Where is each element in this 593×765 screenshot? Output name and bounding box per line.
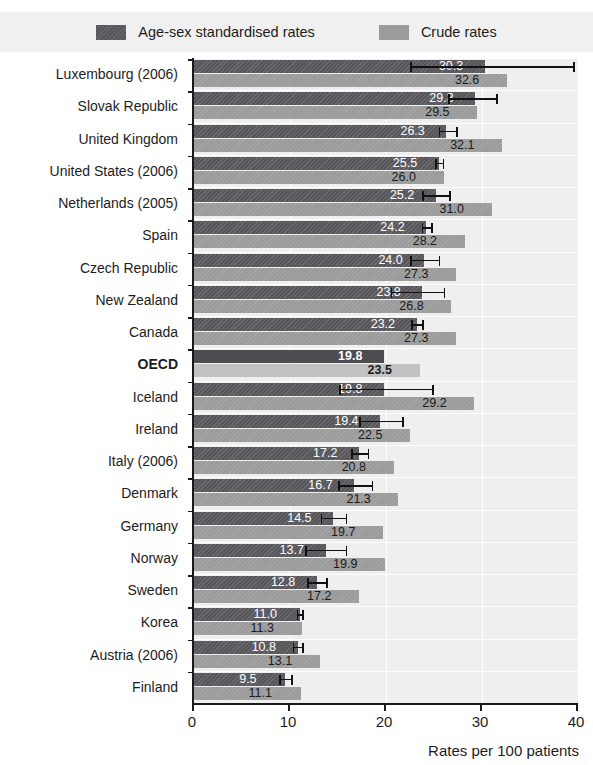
error-bar-cap-high [432, 385, 434, 395]
error-bar-line [307, 582, 326, 584]
bar-row: 25.526.0 [194, 155, 578, 187]
bar-value-standardised: 24.0 [378, 254, 402, 267]
bar-crude [194, 687, 301, 700]
bar-row: 14.519.7 [194, 510, 578, 542]
error-bar-cap-high [372, 481, 374, 491]
gridline [578, 58, 579, 703]
bar-row: 9.511.1 [194, 671, 578, 703]
plot-area: 30.332.629.329.526.332.125.526.025.231.0… [192, 58, 578, 703]
error-bar-cap-low [293, 643, 295, 653]
row-separator [194, 542, 578, 543]
bar-value-standardised: 23.2 [371, 318, 395, 331]
error-bar-cap-low [297, 610, 299, 620]
category-label: Austria (2006) [90, 647, 178, 663]
error-bar-line [410, 260, 439, 262]
x-axis-tick-label: 30 [472, 713, 489, 730]
error-bar-cap-high [422, 320, 424, 330]
error-bar-cap-high [456, 127, 458, 137]
bar-value-crude: 11.1 [249, 687, 272, 700]
bar-value-crude: 20.8 [342, 461, 366, 474]
error-bar-line [305, 550, 345, 552]
category-label: Finland [132, 679, 178, 695]
error-bar-cap-low [351, 449, 353, 459]
bar-value-standardised: 25.5 [393, 157, 417, 170]
error-bar-cap-low [339, 385, 341, 395]
bar-value-crude: 31.0 [440, 203, 464, 216]
bar-value-crude: 32.1 [450, 139, 474, 152]
error-bar-cap-low [359, 417, 361, 427]
bar-standardised [194, 576, 317, 589]
legend-label-standardised: Age-sex standardised rates [138, 24, 315, 40]
bar-row: 30.332.6 [194, 58, 578, 90]
bar-value-standardised: 26.3 [400, 125, 424, 138]
bar-value-standardised: 25.2 [390, 189, 414, 202]
category-label: United States (2006) [50, 163, 178, 179]
row-separator [194, 90, 578, 91]
error-bar-line [351, 453, 367, 455]
category-label: Korea [141, 614, 178, 630]
bar-value-crude: 27.3 [404, 268, 428, 281]
category-label: Slovak Republic [78, 98, 178, 114]
category-label: United Kingdom [78, 131, 178, 147]
error-bar-cap-high [402, 417, 404, 427]
error-bar-cap-low [411, 320, 413, 330]
error-bar-cap-high [346, 546, 348, 556]
x-axis-tick [576, 705, 578, 711]
bar-row: 23.826.8 [194, 284, 578, 316]
x-axis-tick [480, 705, 482, 711]
bar-value-standardised: 19.4 [334, 415, 358, 428]
bar-value-standardised: 19.8 [338, 350, 362, 363]
x-axis-tick [192, 705, 194, 711]
light-swatch-icon [379, 25, 409, 40]
bar-row: 11.011.3 [194, 606, 578, 638]
bar-value-crude: 27.3 [404, 332, 428, 345]
category-label: Netherlands (2005) [58, 195, 178, 211]
error-bar-cap-high [443, 159, 445, 169]
category-label: Spain [142, 227, 178, 243]
category-label: Luxembourg (2006) [56, 66, 178, 82]
bar-row: 19.829.2 [194, 381, 578, 413]
bar-row: 19.823.5 [194, 348, 578, 380]
bar-row: 25.231.0 [194, 187, 578, 219]
category-label: Czech Republic [80, 260, 178, 276]
error-bar-cap-low [439, 127, 441, 137]
x-axis-tick-label: 20 [376, 713, 393, 730]
bar-value-standardised: 13.7 [280, 544, 304, 557]
bar-row: 12.817.2 [194, 574, 578, 606]
bar-value-crude: 13.1 [268, 655, 292, 668]
bar-value-crude: 19.9 [333, 558, 357, 571]
bar-value-crude: 32.6 [455, 74, 479, 87]
bar-value-standardised: 17.2 [313, 447, 337, 460]
row-separator [194, 187, 578, 188]
cropped-title-strip [0, 0, 593, 12]
row-separator [194, 155, 578, 156]
bar-row: 24.228.2 [194, 219, 578, 251]
category-label: New Zealand [96, 292, 179, 308]
row-separator [194, 413, 578, 414]
error-bar-cap-low [422, 223, 424, 233]
row-separator [194, 574, 578, 575]
bar-value-crude: 17.2 [307, 590, 331, 603]
category-label: Sweden [127, 582, 178, 598]
legend-item-crude: Crude rates [379, 24, 497, 40]
bar-value-crude: 19.7 [331, 526, 355, 539]
bar-value-crude: 26.0 [392, 171, 416, 184]
bar-standardised [194, 608, 300, 621]
bar-value-crude: 23.5 [368, 364, 392, 377]
bar-value-crude: 28.2 [413, 235, 437, 248]
error-bar-cap-high [449, 191, 451, 201]
bar-row: 23.227.3 [194, 316, 578, 348]
category-label: OECD [138, 356, 178, 372]
bar-row: 16.721.3 [194, 477, 578, 509]
x-axis-tick [288, 705, 290, 711]
error-bar-line [359, 421, 402, 423]
error-bar-line [321, 518, 346, 520]
bar-row: 24.027.3 [194, 252, 578, 284]
x-axis-tick [384, 705, 386, 711]
bar-chart: Luxembourg (2006)Slovak RepublicUnited K… [0, 56, 593, 765]
bar-crude [194, 655, 320, 668]
bar-value-standardised: 24.2 [380, 221, 404, 234]
error-bar-cap-high [326, 578, 328, 588]
error-bar-line [422, 195, 449, 197]
category-label: Denmark [121, 485, 178, 501]
